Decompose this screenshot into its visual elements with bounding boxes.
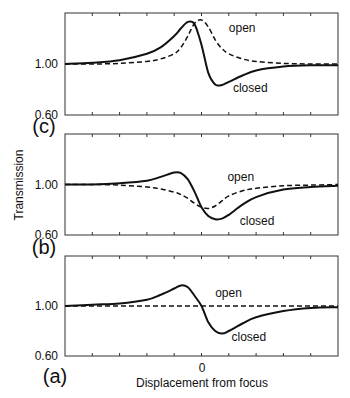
curve-closed <box>65 21 338 85</box>
curve-closed <box>65 172 338 219</box>
y-tick-1-00: 1.00 <box>35 299 59 313</box>
x-tick-zero: 0 <box>199 361 206 375</box>
curve-label-closed: closed <box>240 214 275 228</box>
curve-closed <box>65 285 338 333</box>
curve-label-open: open <box>229 21 256 35</box>
y-tick-1-00: 1.00 <box>35 57 59 71</box>
panel-label-b: (b) <box>32 236 56 258</box>
panel-a: 1.000.60openclosed <box>35 256 338 363</box>
curve-label-closed: closed <box>233 81 268 95</box>
panel-label-c: (c) <box>32 115 55 137</box>
figure: 1.000.60openclosed1.000.60openclosed1.00… <box>0 0 350 398</box>
curve-label-closed: closed <box>232 330 267 344</box>
y-axis-title: Transmission <box>12 150 26 221</box>
y-tick-0-60: 0.60 <box>35 349 59 363</box>
x-axis-title: Displacement from focus <box>136 376 268 390</box>
y-tick-1-00: 1.00 <box>35 178 59 192</box>
curve-label-open: open <box>227 170 254 184</box>
panel-label-a: (a) <box>43 365 67 387</box>
panel-c: 1.000.60openclosed <box>35 13 338 122</box>
panel-b: 1.000.60openclosed <box>35 134 338 242</box>
curve-label-open: open <box>215 286 242 300</box>
